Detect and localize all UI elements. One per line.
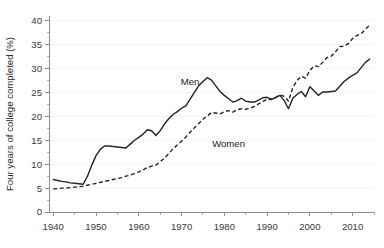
x-tick-label: 2010: [342, 221, 363, 232]
x-tick-label: 1950: [85, 221, 106, 232]
series-line-men: [53, 59, 369, 184]
y-tick-label: 35: [31, 39, 42, 50]
y-tick-label: 25: [31, 87, 42, 98]
x-tick-label: 1980: [214, 221, 235, 232]
line-chart: 0510152025303540 19401950196019701980199…: [0, 0, 384, 248]
series-annotation-women: Women: [212, 138, 245, 149]
series-annotation-men: Men: [181, 76, 200, 87]
gridlines-group: [49, 21, 374, 188]
y-tick-label: 0: [37, 206, 42, 217]
series-annotations-group: MenWomen: [181, 76, 245, 149]
y-tick-label: 20: [31, 111, 42, 122]
y-tick-label: 30: [31, 63, 42, 74]
x-tick-label: 1990: [256, 221, 277, 232]
y-tick-label: 5: [37, 183, 42, 194]
chart-container: 0510152025303540 19401950196019701980199…: [0, 0, 384, 248]
y-tick-label: 15: [31, 135, 42, 146]
x-tick-label: 1940: [43, 221, 64, 232]
x-tick-label: 1960: [128, 221, 149, 232]
y-axis-title: Four years of college completed (%): [4, 37, 15, 191]
x-tick-label: 2000: [299, 221, 320, 232]
y-tick-label: 10: [31, 159, 42, 170]
y-tick-label: 40: [31, 15, 42, 26]
y-tick-labels-group: 0510152025303540: [31, 15, 42, 217]
x-tick-label: 1970: [171, 221, 192, 232]
x-tick-labels-group: 19401950196019701980199020002010: [43, 221, 364, 232]
